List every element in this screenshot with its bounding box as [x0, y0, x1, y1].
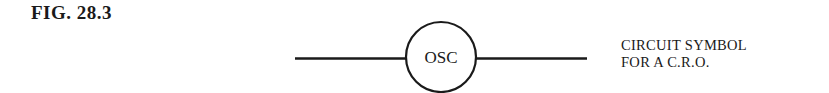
caption-line-1: CIRCUIT SYMBOL — [621, 37, 747, 54]
caption: CIRCUIT SYMBOL FOR A C.R.O. — [621, 37, 747, 71]
caption-line-2: FOR A C.R.O. — [621, 54, 747, 71]
symbol-text: OSC — [424, 48, 457, 67]
